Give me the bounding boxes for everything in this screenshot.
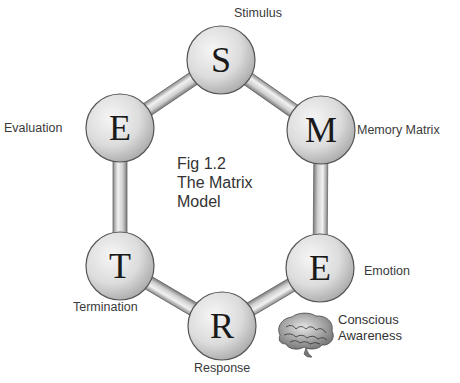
caption-line: Model: [177, 192, 253, 211]
node-stimulus: S: [187, 26, 255, 94]
node-letter: E: [109, 108, 131, 148]
node-letter: E: [309, 248, 331, 288]
node-response: R: [188, 292, 256, 360]
label-evaluation: Evaluation: [4, 121, 62, 135]
node-memory-matrix: M: [287, 96, 355, 164]
node-emotion: E: [286, 234, 354, 302]
node-letter: T: [109, 246, 131, 286]
label-termination: Termination: [73, 300, 138, 314]
node-letter: R: [210, 306, 234, 346]
node-termination: T: [86, 232, 154, 300]
label-emotion: Emotion: [364, 264, 410, 278]
label-memory-matrix: Memory Matrix: [357, 123, 440, 137]
node-letter: M: [305, 110, 337, 150]
figure-caption: Fig 1.2 The Matrix Model: [177, 154, 253, 211]
annotation-line: Conscious: [338, 312, 402, 328]
caption-line: Fig 1.2: [177, 154, 253, 173]
conscious-awareness-label: Conscious Awareness: [338, 312, 402, 344]
brain-icon: [279, 313, 334, 357]
label-stimulus: Stimulus: [234, 6, 282, 20]
annotation-line: Awareness: [338, 328, 402, 344]
label-response: Response: [194, 361, 250, 375]
node-letter: S: [211, 40, 231, 80]
node-evaluation: E: [86, 94, 154, 162]
caption-line: The Matrix: [177, 173, 253, 192]
